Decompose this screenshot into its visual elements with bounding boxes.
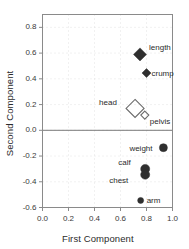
y-tick-label: 0.8 xyxy=(11,22,37,31)
x-tick-label: 0.4 xyxy=(84,214,106,223)
x-tick-label: 1.0 xyxy=(162,214,184,223)
x-tick-label: 0.6 xyxy=(110,214,132,223)
y-tick-label: -0.2 xyxy=(11,151,37,160)
data-point-arm xyxy=(138,197,144,203)
x-axis-title: First Component xyxy=(62,233,134,244)
data-point-weight xyxy=(159,144,167,152)
x-tick-label: 0.8 xyxy=(136,214,158,223)
point-label-pelvis: pelvis xyxy=(150,117,170,126)
x-tick-label: 0.2 xyxy=(58,214,80,223)
point-label-crump: crump xyxy=(152,69,174,78)
y-tick-label: -0.4 xyxy=(11,177,37,186)
data-point-chest xyxy=(141,170,150,179)
point-label-head: head xyxy=(99,98,117,107)
point-label-calf: calf xyxy=(118,158,130,167)
scatter-plot-figure: Second Component First Component 0.80.60… xyxy=(0,0,189,249)
data-point-length xyxy=(134,48,147,61)
y-tick-label: 0.0 xyxy=(11,125,37,134)
point-label-length: length xyxy=(149,43,171,52)
data-point-pelvis xyxy=(141,111,149,119)
point-label-chest: chest xyxy=(109,176,128,185)
y-tick-label: 0.6 xyxy=(11,48,37,57)
data-point-crump xyxy=(142,69,151,78)
y-tick-label: 0.2 xyxy=(11,100,37,109)
y-tick-label: -0.6 xyxy=(11,203,37,212)
y-tick-label: 0.4 xyxy=(11,74,37,83)
x-tick-label: 0.0 xyxy=(32,214,54,223)
point-label-arm: arm xyxy=(147,196,161,205)
point-label-weight: weight xyxy=(129,144,152,153)
